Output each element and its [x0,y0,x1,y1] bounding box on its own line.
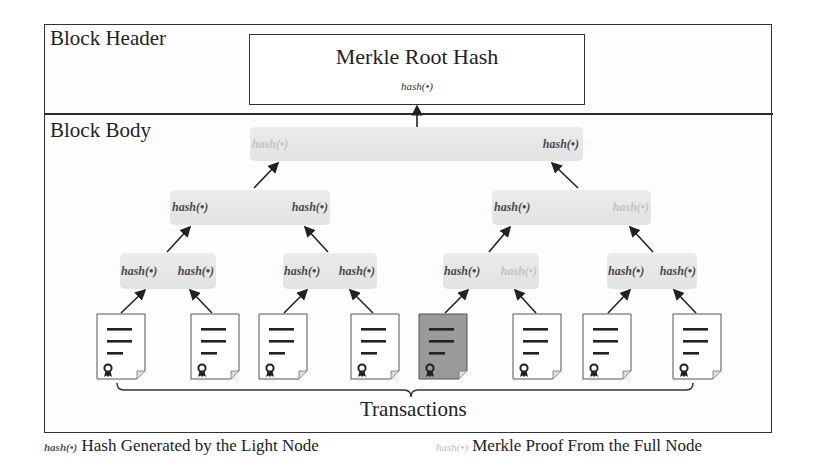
document-icon [582,313,632,380]
legend-full-node: hash(•) Merkle Proof From the Full Node [436,436,702,456]
tree-node-level3-0: hash(•) hash(•) [120,253,216,289]
document-icon [672,313,722,380]
hash-level2-1: hash(•) [292,200,328,215]
hash-level3-3: hash(•) [339,264,375,279]
hash-level3-0: hash(•) [121,264,157,279]
legend-light-symbol: hash(•) [44,441,77,453]
hash-level3-4: hash(•) [444,264,480,279]
legend-proof-text: Merkle Proof From the Full Node [472,436,702,455]
transaction-document [96,313,146,380]
hash-level1-left: hash(•) [252,137,288,152]
hash-level2-2: hash(•) [494,200,530,215]
tree-node-level3-1: hash(•) hash(•) [283,253,377,289]
transaction-document [672,313,722,380]
transaction-document-highlighted [418,313,468,380]
transactions-label: Transactions [360,397,467,422]
transaction-document [190,313,240,380]
hash-level1-right: hash(•) [543,137,579,152]
hash-level3-1: hash(•) [178,264,214,279]
tree-node-level1: hash(•) hash(•) [250,127,583,161]
document-icon [190,313,240,380]
tree-node-level2-right: hash(•) hash(•) [492,190,651,225]
transaction-document [258,313,308,380]
hash-level3-2: hash(•) [284,264,320,279]
document-icon [258,313,308,380]
document-icon [512,313,562,380]
transaction-document [512,313,562,380]
document-icon [350,313,400,380]
tree-node-level3-3: hash(•) hash(•) [607,253,697,289]
tree-node-level2-left: hash(•) hash(•) [170,190,330,225]
transaction-document [350,313,400,380]
legend-light-text: Hash Generated by the Light Node [81,436,318,455]
hash-level3-5: hash(•) [501,264,537,279]
legend-proof-symbol: hash(•) [436,441,468,453]
hash-level2-0: hash(•) [172,200,208,215]
document-icon [96,313,146,380]
hash-level3-7: hash(•) [660,264,696,279]
hash-level3-6: hash(•) [608,264,644,279]
hash-level2-3: hash(•) [613,200,649,215]
legend-light-node: hash(•) Hash Generated by the Light Node [44,436,319,456]
transaction-document [582,313,632,380]
tree-node-level3-2: hash(•) hash(•) [443,253,539,289]
document-icon [418,313,468,380]
